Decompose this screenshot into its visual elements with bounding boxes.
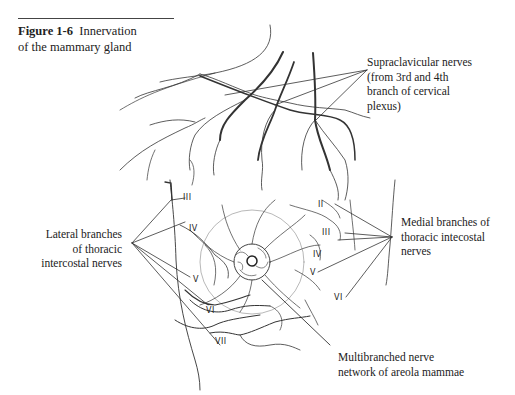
numeral-medial-ii: II [318,200,324,209]
shoulder-contour [160,25,271,82]
numeral-lateral-iv: IV [189,224,198,233]
numeral-medial-iv: IV [313,250,322,259]
nipple [247,256,257,266]
numeral-lateral-iii: III [183,193,192,202]
numeral-lateral-vi: VI [206,306,215,315]
numeral-medial-v: V [310,268,316,277]
numeral-medial-vi: VI [334,293,343,302]
numeral-lateral-v: V [193,275,199,284]
numeral-lateral-vii: VII [215,337,227,346]
numeral-medial-iii: III [322,228,331,237]
nerve-illustration: III IV V VI VII II III IV V VI [0,0,515,395]
